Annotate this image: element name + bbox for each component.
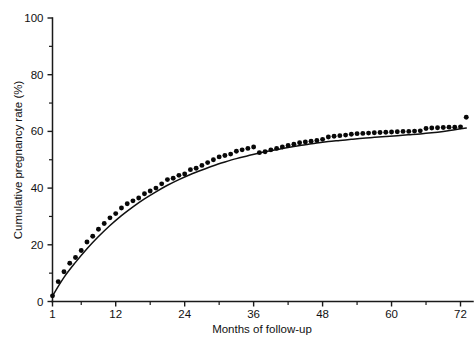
data-point-group [50, 115, 469, 299]
data-point [326, 135, 331, 140]
data-point [360, 131, 365, 136]
y-tick-label-60: 60 [31, 125, 44, 137]
data-point [268, 147, 273, 152]
data-point [119, 205, 124, 210]
data-point [406, 129, 411, 134]
data-point [320, 137, 325, 142]
data-point [125, 201, 130, 206]
data-point [50, 293, 55, 298]
y-tick-label-20: 20 [31, 239, 44, 251]
data-point [343, 133, 348, 138]
data-point [131, 198, 136, 203]
y-tick-label-40: 40 [31, 182, 44, 194]
data-point [234, 149, 239, 154]
data-point [418, 128, 423, 133]
x-axis-tick-labels: 1122436486072 [49, 308, 467, 320]
data-point [332, 134, 337, 139]
x-tick-label-24: 24 [178, 308, 191, 320]
data-point [464, 115, 469, 120]
data-point [383, 130, 388, 135]
data-point [297, 140, 302, 145]
data-point [441, 125, 446, 130]
data-point [142, 191, 147, 196]
data-point [314, 138, 319, 143]
data-point [458, 124, 463, 129]
data-point [395, 129, 400, 134]
data-point [165, 177, 170, 182]
data-point [355, 131, 360, 136]
x-tick-label-1: 1 [49, 308, 55, 320]
data-point [79, 248, 84, 253]
data-point [73, 255, 78, 260]
data-point [222, 153, 227, 158]
data-point [280, 145, 285, 150]
data-point [211, 157, 216, 162]
data-point [148, 188, 153, 193]
data-point [337, 133, 342, 138]
y-tick-label-100: 100 [24, 12, 43, 24]
y-axis-title: Cumulative pregnancy rate (%) [12, 81, 24, 240]
data-point [251, 145, 256, 150]
data-point [366, 131, 371, 136]
data-point [199, 163, 204, 168]
data-point [452, 125, 457, 130]
data-point [435, 125, 440, 130]
data-point [245, 146, 250, 151]
x-tick-label-12: 12 [109, 308, 122, 320]
data-point [171, 176, 176, 181]
data-point [136, 196, 141, 201]
data-point [182, 171, 187, 176]
x-tick-label-60: 60 [385, 308, 398, 320]
data-point [67, 261, 72, 266]
x-tick-label-48: 48 [316, 308, 329, 320]
data-point [90, 234, 95, 239]
data-point [349, 132, 354, 137]
data-point [205, 160, 210, 165]
data-point [176, 173, 181, 178]
y-tick-label-0: 0 [37, 296, 43, 308]
data-point [291, 142, 296, 147]
data-point [372, 130, 377, 135]
data-point [96, 227, 101, 232]
data-point [263, 149, 268, 154]
chart-figure: 020406080100 1122436486072 Cumulative pr… [0, 0, 475, 351]
data-point [286, 143, 291, 148]
data-point [401, 129, 406, 134]
data-point [240, 147, 245, 152]
data-point [188, 167, 193, 172]
data-point [429, 126, 434, 131]
data-point [303, 139, 308, 144]
data-point [102, 221, 107, 226]
data-point [228, 152, 233, 157]
x-tick-label-36: 36 [247, 308, 260, 320]
data-point [113, 211, 118, 216]
data-point [85, 240, 90, 245]
data-point [153, 186, 158, 191]
data-point [62, 269, 67, 274]
data-point [389, 130, 394, 135]
data-point [309, 139, 314, 144]
x-tick-label-72: 72 [454, 308, 467, 320]
y-axis-tick-labels: 020406080100 [24, 12, 43, 308]
data-point [412, 129, 417, 134]
data-point [274, 146, 279, 151]
data-point [159, 181, 164, 186]
scatter-plot-svg: 020406080100 1122436486072 Cumulative pr… [0, 0, 475, 351]
data-point [257, 150, 262, 155]
data-point [378, 130, 383, 135]
data-point [447, 125, 452, 130]
data-point [194, 166, 199, 171]
data-point [424, 126, 429, 131]
data-point [108, 215, 113, 220]
y-tick-label-80: 80 [31, 69, 44, 81]
data-point [217, 154, 222, 159]
x-axis-title: Months of follow-up [212, 323, 312, 335]
data-point [56, 279, 61, 284]
